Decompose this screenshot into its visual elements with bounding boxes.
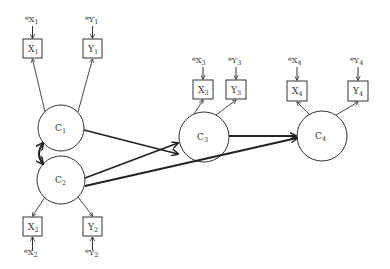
indicator-y4: Y4 — [348, 81, 368, 101]
error-ex1: eX1 — [25, 14, 39, 38]
error-ex2: eX2 — [24, 237, 38, 259]
error-ey1: eY1 — [85, 14, 98, 38]
svg-text:eX4: eX4 — [288, 55, 302, 67]
svg-text:eY1: eY1 — [85, 14, 98, 26]
construct-c2: C2 — [37, 156, 85, 204]
correlation-c1-c2 — [39, 143, 43, 164]
svg-text:eX3: eX3 — [192, 55, 206, 67]
svg-text:eX2: eX2 — [24, 247, 38, 259]
error-ey2: eY2 — [85, 237, 98, 259]
path-c1-c3 — [84, 130, 178, 154]
path-c2-c3 — [85, 143, 178, 178]
error-ex3: eX3 — [192, 55, 206, 79]
indicator-y3: Y3 — [226, 80, 246, 99]
svg-text:eX1: eX1 — [25, 14, 39, 26]
svg-text:eY4: eY4 — [350, 55, 363, 67]
construct-c4: C4 — [297, 111, 347, 161]
indicator-y1: Y1 — [83, 39, 102, 58]
error-ey4: eY4 — [350, 55, 363, 80]
indicator-x3: X3 — [193, 80, 213, 99]
error-ey3: eY3 — [228, 55, 241, 79]
svg-text:eY2: eY2 — [85, 247, 98, 259]
svg-text:eY3: eY3 — [228, 55, 241, 67]
indicator-x4: X4 — [287, 81, 307, 101]
path-diagram: C1 C2 C3 C4 X1 Y1 X2 Y2 X3 Y3 X4 — [0, 0, 390, 269]
indicator-x2: X2 — [23, 217, 42, 236]
error-ex4: eX4 — [288, 55, 302, 80]
indicator-y2: Y2 — [83, 217, 102, 236]
indicator-x1: X1 — [23, 39, 42, 58]
